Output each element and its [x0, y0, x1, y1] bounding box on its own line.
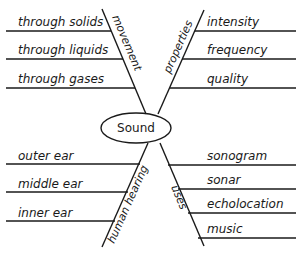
branch-uses: uses sonogram sonar echolocation music — [160, 143, 296, 246]
properties-item: intensity — [207, 15, 260, 29]
human-hearing-item: middle ear — [18, 177, 84, 191]
center-node: Sound — [101, 113, 171, 143]
branch-human-hearing: human hearing outer ear middle ear inner… — [6, 143, 151, 247]
human-hearing-label: human hearing — [105, 163, 151, 245]
properties-item: frequency — [207, 43, 268, 57]
uses-item: music — [207, 222, 243, 236]
uses-item: sonar — [207, 173, 242, 187]
movement-label: movement — [109, 13, 144, 73]
human-hearing-item: outer ear — [18, 149, 75, 163]
movement-item: through liquids — [18, 43, 108, 57]
uses-item: sonogram — [207, 149, 267, 163]
human-hearing-item: inner ear — [18, 206, 73, 220]
movement-item: through gases — [18, 72, 104, 86]
branch-properties: properties intensity frequency quality — [158, 10, 296, 114]
center-label: Sound — [117, 121, 155, 135]
properties-item: quality — [207, 72, 249, 86]
uses-item: echolocation — [207, 197, 284, 211]
movement-item: through solids — [18, 15, 103, 29]
branch-movement: movement through solids through liquids … — [6, 9, 146, 114]
spider-map: movement through solids through liquids … — [0, 0, 302, 254]
uses-label: uses — [168, 183, 190, 212]
